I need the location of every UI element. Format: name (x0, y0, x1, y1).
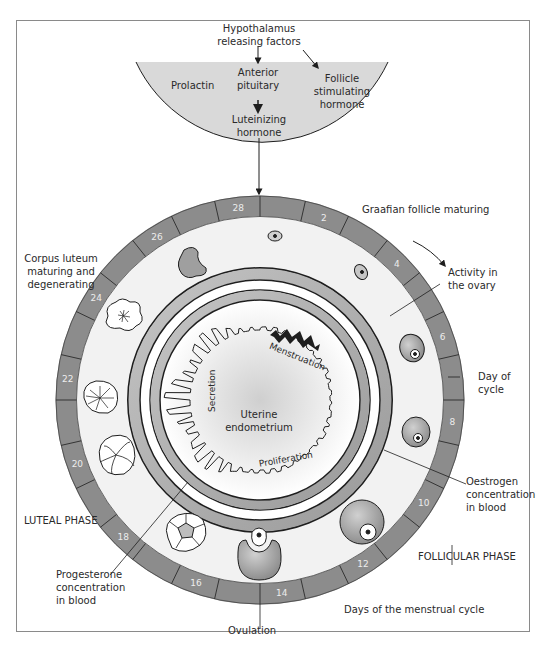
ovulation-label: Ovulation (228, 624, 276, 637)
corpus-luteum-22 (84, 381, 118, 413)
follicular-phase-label: FOLLICULAR PHASE (418, 550, 516, 563)
day-label-4: 4 (394, 259, 400, 269)
corpus-luteum-label: Corpus luteum maturing and degenerating (22, 252, 100, 291)
oestrogen-label: Oestrogen concentration in blood (466, 475, 535, 514)
uterine-endometrium-label: Uterine endometrium (222, 408, 296, 434)
day-label-24: 24 (90, 293, 102, 303)
day-label-18: 18 (117, 532, 129, 542)
day-label-28: 28 (233, 203, 245, 213)
day-label-20: 20 (72, 459, 84, 469)
prolactin-label: Prolactin (171, 79, 214, 92)
day-label-10: 10 (418, 498, 430, 508)
corpus-luteum-forming (166, 513, 206, 551)
day-label-26: 26 (151, 232, 163, 242)
corpus-luteum-degenerating (106, 299, 142, 331)
graafian-label: Graafian follicle maturing (362, 203, 489, 216)
day-label-2: 2 (321, 213, 327, 223)
days-menstrual-label: Days of the menstrual cycle (344, 603, 484, 616)
day-label-12: 12 (357, 559, 368, 569)
luteal-phase-label: LUTEAL PHASE (24, 514, 97, 527)
day-label-14: 14 (276, 588, 288, 598)
hypothalamus-label: Hypothalamus releasing factors (213, 22, 305, 48)
secretion-label: Secretion (206, 370, 219, 412)
progesterone-label: Progesterone concentration in blood (56, 568, 125, 607)
day-label-6: 6 (440, 332, 446, 342)
anterior-pituitary-label: Anterior pituitary (227, 66, 289, 92)
activity-ovary-label: Activity in the ovary (448, 266, 498, 292)
day-of-cycle-label: Day of cycle (478, 370, 511, 396)
day-label-16: 16 (190, 578, 202, 588)
graafian-arrow (413, 241, 445, 266)
corpus-luteum-mature (99, 435, 135, 475)
day-label-22: 22 (62, 374, 73, 384)
lh-label: Luteinizing hormone (222, 113, 296, 139)
day-label-8: 8 (449, 417, 455, 427)
fsh-label: Follicle stimulating hormone (302, 72, 382, 111)
